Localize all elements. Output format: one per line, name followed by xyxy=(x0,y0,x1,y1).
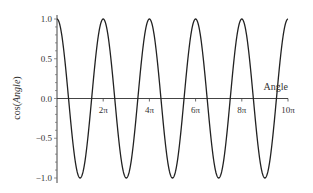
x-tick-label: 2π xyxy=(99,105,109,115)
y-tick-label: 0.0 xyxy=(41,94,53,104)
x-tick-label: 6π xyxy=(191,105,201,115)
cosine-chart: 1.00.50.0−0.5−1.0 2π4π6π8π10π Angle cos(… xyxy=(0,0,313,193)
x-tick-label: 4π xyxy=(145,105,155,115)
y-axis: 1.00.50.0−0.5−1.0 xyxy=(36,14,57,183)
x-axis-title: Angle xyxy=(264,81,289,92)
y-tick-label: −0.5 xyxy=(36,133,53,143)
x-axis: 2π4π6π8π10π xyxy=(57,99,295,115)
y-tick-label: 0.5 xyxy=(41,54,53,64)
y-tick-label: 1.0 xyxy=(41,14,53,24)
y-axis-title: cos(Angle) xyxy=(11,76,23,119)
x-tick-label: 10π xyxy=(281,105,295,115)
y-tick-label: −1.0 xyxy=(36,173,53,183)
x-tick-label: 8π xyxy=(237,105,247,115)
